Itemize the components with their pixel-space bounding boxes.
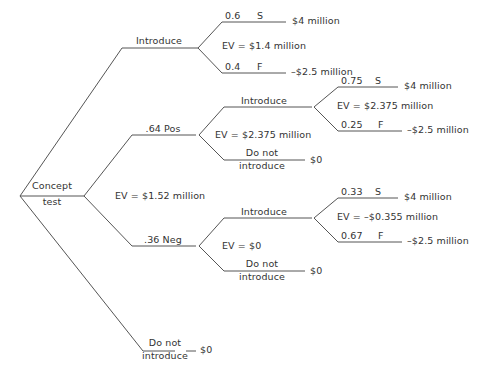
edge-root-to-do-not-introduce: [20, 196, 175, 351]
payoff-pos-failure: –$2.5 million: [407, 125, 469, 136]
payoff-neg-do-not-introduce: $0: [310, 266, 322, 277]
branch-label-do-not-introduce-neg-line2: introduce: [239, 272, 285, 283]
ev-label-concept-test: EV = $1.52 million: [115, 191, 205, 202]
outcome-code-neg-failure: F: [378, 231, 384, 242]
node-label-concept-test-line1: Concept: [32, 181, 72, 192]
decision-tree-diagram: Concept test Introduce 0.6 S $4 million …: [0, 0, 486, 370]
outcome-code-pos-success: S: [375, 76, 381, 87]
probability-label-no-test-failure: 0.4: [225, 62, 240, 73]
tree-branch-lines: [0, 0, 486, 370]
outcome-code-no-test-success: S: [257, 11, 263, 22]
probability-label-no-test-success: 0.6: [225, 11, 240, 22]
branch-label-introduce-pos: Introduce: [241, 96, 287, 107]
branch-label-pos: .64 Pos: [146, 124, 181, 135]
probability-label-neg-success: 0.33: [341, 187, 363, 198]
edge-top-failure: [198, 48, 286, 73]
ev-label-pos-decision: EV = $2.375 million: [215, 130, 311, 141]
branch-label-do-not-introduce-neg-line1: Do not: [246, 259, 278, 270]
branch-label-do-not-introduce-root-line2: introduce: [142, 351, 188, 362]
branch-label-do-not-introduce-pos-line1: Do not: [246, 148, 278, 159]
branch-label-neg: .36 Neg: [144, 235, 182, 246]
payoff-pos-do-not-introduce: $0: [310, 155, 322, 166]
node-label-concept-test-line2: test: [43, 197, 62, 208]
branch-label-do-not-introduce-pos-line2: introduce: [239, 161, 285, 172]
branch-label-introduce-neg: Introduce: [241, 207, 287, 218]
probability-label-neg-failure: 0.67: [341, 231, 363, 242]
branch-label-introduce-no-test: Introduce: [136, 36, 182, 47]
edge-root-to-introduce: [20, 48, 196, 196]
payoff-neg-success: $4 million: [404, 192, 452, 203]
payoff-no-test-success: $4 million: [292, 16, 340, 27]
payoff-neg-failure: –$2.5 million: [407, 236, 469, 247]
payoff-root-do-not-introduce: $0: [200, 345, 212, 356]
outcome-code-neg-success: S: [375, 187, 381, 198]
ev-label-no-test-introduce: EV = $1.4 million: [222, 41, 306, 52]
probability-label-pos-failure: 0.25: [341, 120, 363, 131]
ev-label-neg-decision: EV = $0: [222, 241, 261, 252]
payoff-pos-success: $4 million: [404, 81, 452, 92]
edge-test-to-pos: [84, 135, 196, 196]
outcome-code-no-test-failure: F: [257, 62, 263, 73]
ev-label-neg-introduce: EV = –$0.355 million: [337, 212, 438, 223]
branch-label-do-not-introduce-root-line1: Do not: [149, 338, 181, 349]
outcome-code-pos-failure: F: [378, 120, 384, 131]
ev-label-pos-introduce: EV = $2.375 million: [337, 101, 433, 112]
probability-label-pos-success: 0.75: [341, 76, 363, 87]
